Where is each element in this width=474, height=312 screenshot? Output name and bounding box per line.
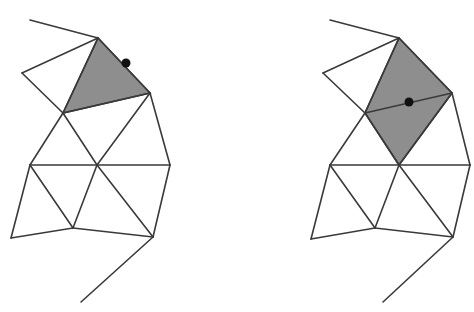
mesh-edge: [452, 93, 470, 165]
mesh-edge: [153, 165, 170, 237]
mesh-edge: [150, 93, 170, 165]
right-mesh: [311, 20, 470, 302]
left-mesh: [11, 20, 170, 302]
mesh-edge: [323, 73, 365, 113]
mesh-edge: [81, 237, 153, 302]
mesh-edge: [330, 113, 365, 165]
mesh-edge: [375, 228, 453, 237]
mesh-edge: [330, 165, 375, 228]
shaded-region: [63, 38, 150, 113]
mesh-edge: [97, 165, 153, 237]
mesh-edge: [399, 165, 453, 237]
point-marker: [122, 59, 131, 68]
mesh-edge: [311, 228, 375, 239]
mesh-edge: [63, 113, 97, 165]
mesh-edge: [30, 165, 73, 228]
mesh-edge: [11, 165, 30, 238]
mesh-edge: [311, 165, 330, 239]
diagram-canvas: [0, 0, 474, 312]
mesh-edge: [453, 165, 470, 237]
mesh-edge: [73, 228, 153, 237]
mesh-edge: [11, 228, 73, 238]
point-marker: [405, 98, 414, 107]
mesh-edge: [30, 20, 98, 38]
mesh-edge: [30, 113, 63, 165]
mesh-edge: [375, 165, 399, 228]
mesh-edge: [330, 20, 399, 38]
mesh-edge: [22, 73, 63, 113]
mesh-edge: [73, 165, 97, 228]
mesh-edge: [383, 237, 453, 302]
